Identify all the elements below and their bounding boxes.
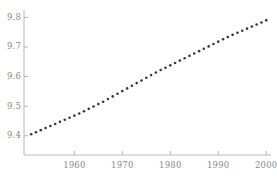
x-axis-ticks: [74, 151, 266, 155]
data-point: [207, 45, 210, 48]
data-point: [59, 121, 62, 124]
data-point: [54, 123, 57, 126]
data-point-markers: [30, 19, 268, 136]
data-point: [159, 69, 162, 72]
data-point: [203, 47, 206, 50]
x-axis-tick-label: 1970: [102, 160, 142, 170]
data-point: [251, 25, 254, 28]
data-point: [246, 27, 249, 30]
data-point: [44, 127, 47, 130]
y-axis-tick-label: 9.7: [7, 41, 21, 51]
y-axis-tick-label: 9.8: [7, 12, 21, 22]
data-point: [222, 38, 225, 41]
data-point: [198, 50, 201, 53]
x-axis-tick-label: 1980: [150, 160, 190, 170]
data-point: [255, 23, 258, 26]
y-axis-ticks: [24, 17, 28, 135]
axes-lines: [24, 10, 271, 155]
data-point: [126, 87, 129, 90]
data-point: [135, 82, 138, 85]
data-point: [97, 103, 100, 106]
data-point: [212, 43, 215, 46]
data-point: [145, 76, 148, 79]
data-point: [116, 92, 119, 95]
data-point: [183, 57, 186, 60]
data-point: [265, 19, 268, 22]
data-point: [188, 55, 191, 58]
chart-figure: 9.49.59.69.79.8 19601970198019902000: [0, 0, 277, 181]
data-point: [30, 133, 33, 136]
data-point: [68, 116, 71, 119]
data-point: [236, 31, 239, 34]
data-point: [92, 105, 95, 108]
data-point: [87, 108, 90, 111]
data-point: [78, 112, 81, 115]
data-point: [63, 118, 66, 121]
data-point: [131, 84, 134, 87]
data-point: [140, 79, 143, 82]
data-point: [121, 90, 124, 93]
data-point: [193, 52, 196, 55]
data-point: [217, 40, 220, 43]
data-point: [227, 36, 230, 39]
data-point: [111, 95, 114, 98]
data-point: [174, 62, 177, 65]
data-point: [102, 100, 105, 103]
data-point: [179, 59, 182, 62]
plot-area: [0, 0, 277, 181]
y-axis-tick-label: 9.4: [7, 130, 21, 140]
data-point: [35, 131, 38, 134]
y-axis-tick-label: 9.5: [7, 101, 21, 111]
data-point: [169, 64, 172, 67]
data-point: [83, 110, 86, 113]
data-point: [241, 29, 244, 32]
data-point: [73, 114, 76, 117]
data-point: [164, 66, 167, 69]
data-point: [150, 74, 153, 77]
data-point: [49, 125, 52, 128]
data-point: [107, 98, 110, 101]
data-point: [231, 34, 234, 37]
x-axis-tick-label: 1990: [198, 160, 238, 170]
data-point: [260, 21, 263, 24]
y-axis-tick-label: 9.6: [7, 71, 21, 81]
x-axis-tick-label: 2000: [246, 160, 277, 170]
x-axis-tick-label: 1960: [54, 160, 94, 170]
data-point: [39, 129, 42, 132]
data-point: [155, 71, 158, 74]
